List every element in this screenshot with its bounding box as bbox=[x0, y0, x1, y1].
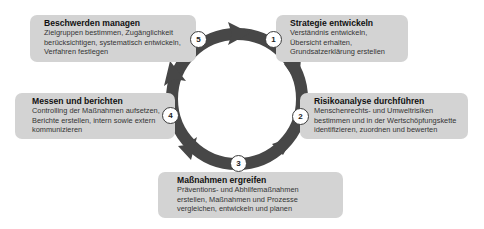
step-desc-line: bestimmen und in der Wertschöpfungskette bbox=[314, 116, 468, 126]
step-desc-line: vergleichen, entwickeln und planen bbox=[177, 204, 343, 214]
step-box-massnahmen-ergreifen: Maßnahmen ergreifen Präventions- und Abh… bbox=[158, 172, 343, 218]
step-box-beschwerden-managen: Beschwerden managen Zielgruppen bestimme… bbox=[30, 15, 196, 62]
step-box-messen-und-berichten: Messen und berichten Controlling der Maß… bbox=[15, 93, 175, 139]
step-title: Risikoanalyse durchführen bbox=[314, 96, 468, 106]
step-title: Strategie entwickeln bbox=[290, 18, 408, 28]
step-desc-line: kommunizieren bbox=[32, 125, 175, 135]
step-box-risikoanalyse-durchfuehren: Risikoanalyse durchführen Menschenrechts… bbox=[300, 93, 468, 139]
step-desc-line: berücksichtigen, systematisch entwickeln… bbox=[44, 38, 196, 48]
step-number-badge-3: 3 bbox=[230, 155, 247, 172]
step-number-badge-1: 1 bbox=[265, 31, 282, 48]
step-desc-line: identifizieren, zuordnen und bewerten bbox=[314, 125, 468, 135]
step-title: Messen und berichten bbox=[32, 96, 175, 106]
step-desc-line: Controlling der Maßnahmen aufsetzen, bbox=[32, 106, 175, 116]
step-number-badge-5: 5 bbox=[190, 31, 207, 48]
step-number-badge-4: 4 bbox=[162, 107, 179, 124]
step-desc-line: Menschenrechts- und Umweltrisiken bbox=[314, 106, 468, 116]
step-title: Maßnahmen ergreifen bbox=[177, 175, 343, 185]
step-desc-line: Präventions- und Abhilfemaßnahmen bbox=[177, 185, 343, 195]
step-desc-line: erstellen, Maßnahmen und Prozesse bbox=[177, 195, 343, 205]
step-desc-line: Grundsatzerklärung erstellen bbox=[290, 47, 408, 57]
step-desc-line: Zielgruppen bestimmen, Zugänglichkeit bbox=[44, 28, 196, 38]
step-desc-line: Übersicht erhalten, bbox=[290, 38, 408, 48]
step-number-badge-2: 2 bbox=[292, 108, 309, 125]
step-title: Beschwerden managen bbox=[44, 18, 196, 28]
step-desc-line: Verfahren festlegen bbox=[44, 47, 196, 57]
step-desc-line: Berichte erstellen, intern sowie extern bbox=[32, 116, 175, 126]
step-desc-line: Verständnis entwickeln, bbox=[290, 28, 408, 38]
step-box-strategie-entwickeln: Strategie entwickeln Verständnis entwick… bbox=[276, 15, 408, 62]
